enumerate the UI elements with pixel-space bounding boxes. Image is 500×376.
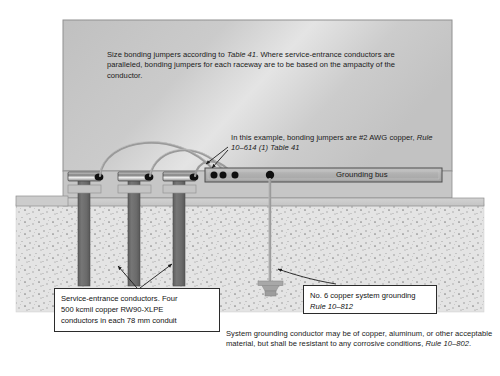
wall-note-text: Size bonding jumpers according to Table … (107, 50, 407, 81)
wall-note-reference: Table 41 (227, 50, 256, 59)
bond-dot-raceway-2 (145, 173, 154, 180)
system-grounding-conductor (269, 178, 270, 282)
bus-terminal-4 (266, 171, 274, 179)
bond-dot-raceway-1 (95, 173, 104, 180)
callout-service-entrance-conductors: Service-entrance conductors. Four 500 kc… (54, 288, 220, 332)
footer-note-part2: . (469, 339, 471, 348)
jumper-note-part1: In this example, bonding jumpers are #2 … (231, 133, 417, 142)
grounding-bus (205, 168, 442, 182)
callout-grounding-line1: No. 6 copper system grounding (310, 290, 431, 301)
floor-slab (16, 196, 68, 206)
callout-system-grounding: No. 6 copper system grounding Rule 10–81… (303, 285, 437, 314)
callout-grounding-reference: Rule 10–812 (310, 301, 431, 312)
callout-conductors-line3: conductors in each 78 mm conduit (61, 315, 214, 326)
diagram-canvas: Size bonding jumpers according to Table … (0, 0, 500, 376)
bus-terminal-2 (220, 172, 227, 179)
bus-terminal-1 (211, 172, 218, 179)
grounding-bus-label: Grounding bus (336, 170, 388, 181)
footer-note-reference: Rule 10–802 (425, 339, 469, 348)
callout-conductors-line2: 500 kcmil copper RW90-XLPE (61, 304, 214, 315)
bus-terminal-3 (232, 172, 239, 179)
jumper-note-text: In this example, bonding jumpers are #2 … (231, 133, 446, 154)
callout-conductors-line1: Service-entrance conductors. Four (61, 293, 214, 304)
footer-note-text: System grounding conductor may be of cop… (226, 329, 494, 350)
wall-note-part1: Size bonding jumpers according to (107, 50, 227, 59)
bond-dot-raceway-3 (190, 173, 199, 180)
